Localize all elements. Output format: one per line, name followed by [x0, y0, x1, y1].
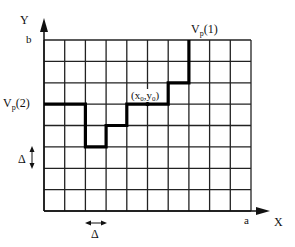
- delta-vertical-label: Δ: [18, 152, 26, 166]
- y-axis-label: Y: [20, 13, 29, 27]
- delta-horizontal-label: Δ: [91, 227, 99, 241]
- delta-horizontal-indicator: Δ: [85, 221, 107, 242]
- arrow-up-icon: [30, 146, 35, 152]
- y-axis: [40, 18, 48, 211]
- grid-path-diagram: Y b a X Vp(1) Vp(2) (x0,y0) Δ Δ: [0, 0, 295, 247]
- arrow-down-icon: [30, 163, 35, 169]
- arrow-left-icon: [85, 221, 91, 226]
- y-end-label: b: [26, 33, 32, 45]
- x-end-label: a: [244, 214, 249, 226]
- arrow-right-icon: [101, 221, 107, 226]
- delta-vertical-indicator: Δ: [18, 146, 35, 169]
- point-x0-y0: [145, 102, 149, 106]
- grid: [44, 40, 251, 211]
- vp2-label: Vp(2): [3, 96, 30, 112]
- x-axis: [44, 207, 270, 215]
- x-axis-label: X: [274, 215, 283, 229]
- point-x0-y0-label: (x0,y0): [131, 89, 159, 103]
- vp1-label: Vp(1): [191, 22, 218, 38]
- y-axis-arrow-icon: [40, 18, 48, 32]
- x-axis-arrow-icon: [256, 207, 270, 215]
- staircase-path: [44, 40, 189, 147]
